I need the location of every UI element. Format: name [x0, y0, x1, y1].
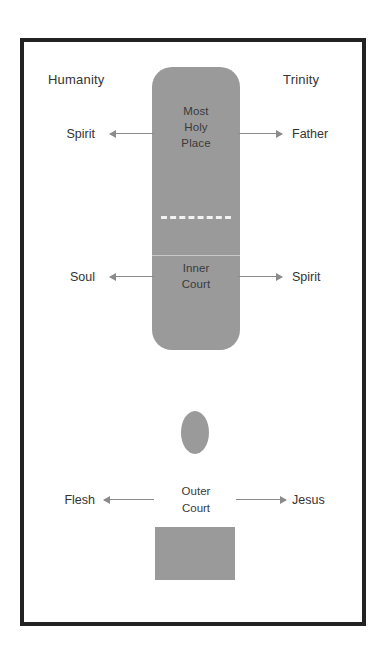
row-most-holy-place-right-label: Father	[292, 123, 328, 145]
most-holy-place-line-1: Most	[152, 103, 240, 119]
arrow-right-icon	[236, 499, 286, 500]
arrow-right-icon	[238, 276, 282, 277]
row-inner-court: Soul Spirit	[0, 266, 387, 288]
court-divider-line	[152, 255, 240, 256]
veil-dashed-line	[161, 216, 231, 219]
diagram-root: Humanity Trinity Most Holy Place Inner C…	[0, 0, 387, 664]
arrow-left-icon	[110, 276, 154, 277]
row-outer-court: Flesh Jesus	[0, 489, 387, 511]
heading-trinity: Trinity	[283, 72, 319, 87]
arrow-left-icon	[104, 499, 154, 500]
heading-humanity: Humanity	[48, 72, 105, 87]
row-most-holy-place: Spirit Father	[0, 123, 387, 145]
arrow-left-icon	[110, 133, 154, 134]
row-inner-court-right-label: Spirit	[292, 266, 320, 288]
altar-oval-shape	[181, 411, 209, 454]
arrow-right-icon	[238, 133, 282, 134]
row-most-holy-place-left-label: Spirit	[67, 123, 95, 145]
row-inner-court-left-label: Soul	[70, 266, 95, 288]
base-rectangle-shape	[155, 527, 235, 580]
row-outer-court-left-label: Flesh	[64, 489, 95, 511]
row-outer-court-right-label: Jesus	[292, 489, 325, 511]
